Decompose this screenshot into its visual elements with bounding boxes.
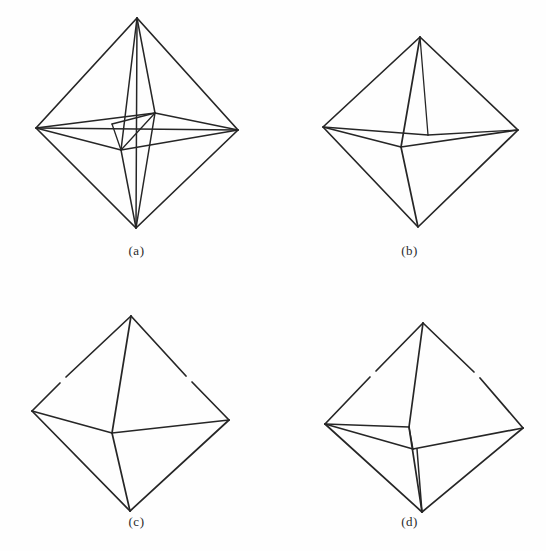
apex-bottom-to-front-b <box>401 147 418 227</box>
octahedron-diagram-a <box>0 0 273 240</box>
apex-bottom-to-front-c <box>112 433 130 511</box>
edge-bottom-left-c <box>32 411 130 511</box>
edge-bottom-right-c <box>130 420 229 511</box>
apex-top-to-back-b <box>420 37 428 135</box>
octahedron-diagram-d <box>273 276 546 516</box>
panel-caption-d: (d) <box>273 514 546 530</box>
edge-top-left-upper-c <box>66 316 131 377</box>
inner-rhombus-upper-a <box>112 113 155 124</box>
figure-panel-a: (a) <box>0 0 273 275</box>
equator-front-right-c <box>112 420 229 433</box>
equator-front-right-b <box>401 130 518 147</box>
octahedron-diagram-c <box>0 276 273 516</box>
equator-front-right-d <box>413 428 523 449</box>
panel-caption-b: (b) <box>273 243 546 259</box>
edge-top-right-upper-d <box>423 323 474 372</box>
octahedron-diagram-b <box>273 0 546 240</box>
figure-sheet: (a) (b) <box>0 0 546 551</box>
inner-top-back-a <box>137 18 155 113</box>
edge-top-right-upper-c <box>131 316 186 376</box>
edge-bottom-right-d <box>422 428 523 512</box>
panel-caption-a: (a) <box>0 243 273 259</box>
edge-top-left-lower-c <box>32 383 60 411</box>
vertical-axis-a <box>136 18 137 228</box>
equator-left-upper-d <box>325 424 409 427</box>
edge-top-right-lower-c <box>192 382 229 420</box>
equator-front-low-left-a <box>36 128 121 150</box>
edge-top-left-upper-d <box>376 323 423 371</box>
apex-top-to-front-b <box>401 37 420 147</box>
edge-top-left-lower-d <box>325 377 370 424</box>
apex-top-to-rear-d <box>409 323 423 427</box>
panel-caption-c: (c) <box>0 514 273 530</box>
figure-panel-b: (b) <box>273 0 546 275</box>
edge-top-right-lower-d <box>480 378 523 428</box>
equator-left-front-c <box>32 411 112 433</box>
apex-bottom-to-rear-d <box>409 427 422 512</box>
inner-rhombus-lower-a <box>112 124 121 150</box>
figure-panel-c: (c) <box>0 276 273 551</box>
inner-top-front-a <box>121 18 137 150</box>
apex-top-to-front-c <box>112 316 131 433</box>
figure-panel-d: (d) <box>273 276 546 551</box>
